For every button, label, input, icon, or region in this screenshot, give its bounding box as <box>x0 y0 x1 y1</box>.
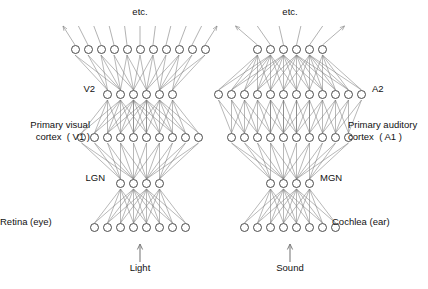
neuron-node <box>292 179 301 188</box>
neuron-node <box>116 179 125 188</box>
neuron-node <box>318 223 327 232</box>
neuron-node <box>103 223 112 232</box>
neuron-node <box>266 133 275 142</box>
neuron-node <box>357 90 366 99</box>
neuron-node <box>181 223 190 232</box>
neuron-node <box>279 90 288 99</box>
neuron-node <box>318 133 327 142</box>
neuron-node <box>155 223 164 232</box>
neuron-node <box>168 90 177 99</box>
neuron-node <box>292 90 301 99</box>
neuron-node <box>116 90 125 99</box>
neuron-node <box>103 90 112 99</box>
neuron-node <box>227 133 236 142</box>
input-label-visual: Light <box>100 262 180 274</box>
layer-label-lgn: LGN <box>0 172 105 184</box>
neuron-node <box>116 223 125 232</box>
neuron-node <box>168 133 177 142</box>
neuron-node <box>266 90 275 99</box>
neuron-node <box>305 179 314 188</box>
neuron-node <box>214 90 223 99</box>
neuron-node <box>84 45 93 54</box>
neuron-node <box>194 133 203 142</box>
layer-label-v1: Primary visual cortex ( V1 ) <box>0 119 90 143</box>
neuron-node <box>279 179 288 188</box>
neuron-node <box>240 223 249 232</box>
neuron-node <box>201 45 210 54</box>
neuron-node <box>331 90 340 99</box>
neuron-node <box>142 179 151 188</box>
neuron-node <box>71 45 80 54</box>
neuron-node <box>142 133 151 142</box>
neuron-node <box>129 223 138 232</box>
neuron-node <box>305 90 314 99</box>
neuron-node <box>279 45 288 54</box>
neuron-node <box>292 45 301 54</box>
neuron-node <box>331 133 340 142</box>
neuron-node <box>253 45 262 54</box>
neuron-node <box>97 45 106 54</box>
neuron-node <box>188 45 197 54</box>
neuron-node <box>149 45 158 54</box>
etc-label-visual: etc. <box>110 6 170 18</box>
layer-label-cochlea: Cochlea (ear) <box>332 216 390 228</box>
layer-label-v2: V2 <box>0 83 95 95</box>
neuron-node <box>266 179 275 188</box>
neuron-node <box>253 90 262 99</box>
neuron-node <box>162 45 171 54</box>
neuron-node <box>266 45 275 54</box>
neuron-node <box>292 223 301 232</box>
neuron-node <box>142 90 151 99</box>
neuron-node <box>279 223 288 232</box>
neuron-node <box>175 45 184 54</box>
neuron-node <box>168 223 177 232</box>
neuron-node <box>181 133 190 142</box>
connection-wiring <box>0 0 428 289</box>
neuron-node <box>318 45 327 54</box>
neuron-node <box>110 45 119 54</box>
neural-pathway-diagram: Retina (eye)LGNPrimary visual cortex ( V… <box>0 0 428 289</box>
neuron-node <box>305 133 314 142</box>
layer-label-retina: Retina (eye) <box>0 216 34 228</box>
neuron-node <box>305 45 314 54</box>
neuron-node <box>116 133 125 142</box>
neuron-node <box>292 133 301 142</box>
neuron-node <box>253 133 262 142</box>
neuron-node <box>318 90 327 99</box>
layer-label-mgn: MGN <box>320 172 342 184</box>
neuron-node <box>279 133 288 142</box>
neuron-node <box>90 223 99 232</box>
neuron-node <box>344 90 353 99</box>
layer-label-a2: A2 <box>372 83 384 95</box>
neuron-node <box>240 133 249 142</box>
neuron-node <box>266 223 275 232</box>
neuron-node <box>253 223 262 232</box>
neuron-node <box>305 223 314 232</box>
layer-label-a1: Primary auditory cortex ( A1 ) <box>348 119 417 143</box>
input-label-auditory: Sound <box>250 262 330 274</box>
neuron-node <box>129 133 138 142</box>
neuron-node <box>240 90 249 99</box>
etc-label-auditory: etc. <box>260 6 320 18</box>
neuron-node <box>142 223 151 232</box>
neuron-node <box>136 45 145 54</box>
neuron-node <box>90 133 99 142</box>
neuron-node <box>227 90 236 99</box>
neuron-node <box>155 179 164 188</box>
neuron-node <box>155 133 164 142</box>
neuron-node <box>155 90 164 99</box>
neuron-node <box>123 45 132 54</box>
neuron-node <box>129 90 138 99</box>
neuron-node <box>129 179 138 188</box>
neuron-node <box>103 133 112 142</box>
